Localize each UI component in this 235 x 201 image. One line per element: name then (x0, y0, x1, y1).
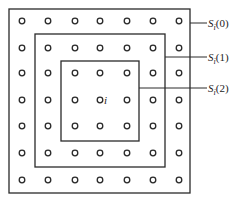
grid-node (150, 70, 156, 76)
grid-node (19, 177, 25, 183)
neighborhood-label-0: Si(0) (208, 17, 229, 32)
neighborhood-diagram: i Si(0)Si(1)Si(2) (0, 0, 235, 201)
grid-node (176, 177, 182, 183)
grid-node (176, 150, 182, 156)
grid-node (97, 177, 103, 183)
grid-node (124, 45, 130, 51)
grid-node (150, 150, 156, 156)
grid-node (45, 18, 51, 24)
neighborhood-labels: Si(0)Si(1)Si(2) (139, 17, 229, 97)
grid-node (45, 97, 51, 103)
grid-node (72, 18, 78, 24)
grid-node (72, 45, 78, 51)
grid-node (176, 123, 182, 129)
grid-node (19, 18, 25, 24)
grid-node (45, 45, 51, 51)
grid-node (72, 150, 78, 156)
grid-node (97, 18, 103, 24)
grid-node (19, 45, 25, 51)
grid-node (45, 70, 51, 76)
grid-nodes: i (19, 18, 182, 183)
grid-node (72, 70, 78, 76)
grid-node (19, 97, 25, 103)
grid-node (124, 70, 130, 76)
grid-node (97, 70, 103, 76)
grid-node (150, 97, 156, 103)
grid-node (124, 177, 130, 183)
grid-node (97, 97, 103, 103)
grid-node (97, 123, 103, 129)
neighborhood-label-1: Si(1) (208, 51, 229, 66)
grid-node (176, 97, 182, 103)
grid-node (150, 177, 156, 183)
grid-node (19, 123, 25, 129)
grid-node (45, 123, 51, 129)
grid-node (97, 150, 103, 156)
grid-node (97, 45, 103, 51)
grid-node (72, 177, 78, 183)
grid-node (150, 123, 156, 129)
grid-node (150, 18, 156, 24)
grid-node (72, 123, 78, 129)
grid-node (124, 97, 130, 103)
grid-node (124, 150, 130, 156)
grid-node (72, 97, 78, 103)
grid-node (19, 150, 25, 156)
grid-node (45, 177, 51, 183)
center-node-label: i (104, 94, 107, 106)
grid-node (176, 18, 182, 24)
neighborhood-label-2: Si(2) (208, 82, 229, 97)
grid-node (124, 123, 130, 129)
grid-node (45, 150, 51, 156)
grid-node (176, 45, 182, 51)
grid-node (150, 45, 156, 51)
grid-node (124, 18, 130, 24)
grid-node (176, 70, 182, 76)
grid-node (19, 70, 25, 76)
